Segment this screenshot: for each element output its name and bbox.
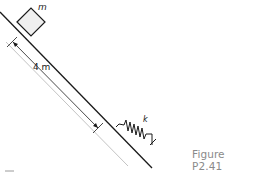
spring-constant-label: k — [143, 115, 148, 124]
incline-lower-edge — [6, 42, 128, 166]
distance-label: 4 m — [33, 62, 50, 72]
distance-dimension — [7, 37, 103, 133]
mass-block — [17, 8, 45, 36]
incline-top-edge — [0, 12, 152, 168]
figure-caption: Figure P2.41 — [192, 148, 256, 172]
mass-label: m — [38, 2, 47, 12]
